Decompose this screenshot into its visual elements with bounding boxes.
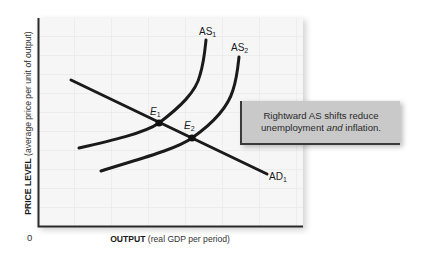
- e1-point: [155, 119, 162, 126]
- e2-point: [188, 134, 195, 141]
- e2-label: E2: [184, 120, 195, 132]
- callout-emphasis: and: [327, 122, 343, 133]
- ad1-label: AD1: [269, 171, 287, 183]
- callout-line-2: unemployment and inflation.: [261, 122, 381, 135]
- y-axis-label: PRICE LEVEL (average price per unit of o…: [23, 31, 33, 214]
- annotation-callout: Rightward AS shifts reduce unemployment …: [240, 101, 400, 145]
- origin-label: 0: [27, 232, 32, 243]
- chart: AS1 AS2 AD1 E1 E2 Rightward AS shifts re…: [0, 0, 433, 261]
- callout-line-1: Rightward AS shifts reduce: [263, 110, 378, 123]
- as2-label: AS2: [231, 42, 248, 54]
- x-axis-label: OUTPUT (real GDP per period): [110, 234, 230, 244]
- e1-label: E1: [150, 106, 161, 118]
- as1-label: AS1: [199, 26, 216, 38]
